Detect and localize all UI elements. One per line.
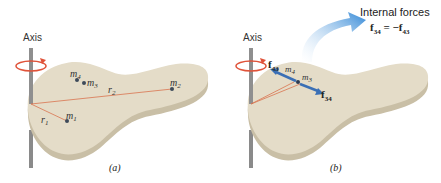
m3-sub: 3 <box>309 76 313 84</box>
eq-lhs-sub: 34 <box>374 28 381 36</box>
mass-dot-m3-m4 <box>296 80 300 84</box>
axis-rod-lower <box>249 130 253 168</box>
internal-forces-equation: f34 = −f43 <box>370 21 409 36</box>
m4-sub: 4 <box>77 73 81 81</box>
r1-sub: 1 <box>45 119 49 127</box>
m4-sub: 4 <box>292 68 296 76</box>
axis-rod-lower <box>29 130 33 168</box>
callout-arrow-icon <box>302 12 366 62</box>
f43-sub: 43 <box>272 65 279 73</box>
body-top <box>28 62 208 155</box>
axis-label-a: Axis <box>23 33 42 43</box>
force-label-f43: f43 <box>268 58 279 73</box>
axis-rod-upper <box>29 48 33 104</box>
m2-sub: 2 <box>177 82 181 90</box>
force-label-f34: f34 <box>321 88 332 103</box>
mass-label-m3: m3 <box>302 73 312 84</box>
mass-label-m3: m3 <box>87 78 98 90</box>
eq-sign: = − <box>383 21 398 33</box>
panel-a: Axis m4 m3 m2 m1 r2 r1 (a) <box>0 0 220 183</box>
r2-sub: 2 <box>112 89 116 97</box>
internal-forces-title: Internal forces <box>360 6 430 18</box>
mass-label-m2: m2 <box>170 78 181 90</box>
radius-label-r1: r1 <box>41 115 48 127</box>
f34-sub: 34 <box>325 95 332 103</box>
m1-sub: 1 <box>73 115 77 123</box>
panel-b: Axis Internal forces f34 = −f43 f43 f34 … <box>220 0 441 183</box>
caption-b: (b) <box>330 162 342 173</box>
mass-label-m4: m4 <box>70 69 81 81</box>
axis-label-b: Axis <box>243 33 262 43</box>
axis-rod-upper <box>249 48 253 104</box>
radius-label-r2: r2 <box>108 85 115 97</box>
mass-label-m1: m1 <box>66 111 77 123</box>
mass-label-m4: m4 <box>285 65 295 76</box>
mass-dot-m3 <box>82 81 86 85</box>
eq-rhs-sub: 43 <box>402 28 409 36</box>
body-top <box>248 62 428 155</box>
caption-a: (a) <box>109 162 121 173</box>
m3-sub: 3 <box>94 82 98 90</box>
